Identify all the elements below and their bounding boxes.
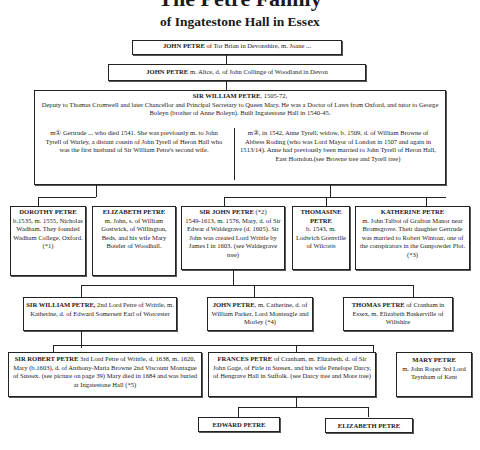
connector bbox=[224, 197, 446, 198]
connector bbox=[296, 397, 297, 407]
person-john-petre-tor-brian: JOHN PETRE of Tor Brian in Devonshire, m… bbox=[132, 40, 342, 55]
connector bbox=[38, 197, 96, 198]
connector bbox=[226, 55, 227, 64]
connector bbox=[254, 285, 255, 297]
connector bbox=[224, 197, 225, 206]
connector bbox=[373, 345, 374, 352]
connector bbox=[53, 345, 373, 346]
connector bbox=[81, 285, 82, 297]
page-title: The Petre Family bbox=[0, 0, 480, 10]
person-frances-petre: FRANCES PETRE of Cranham, m. Elizabeth, … bbox=[208, 352, 376, 397]
connector bbox=[330, 185, 331, 197]
connector bbox=[81, 285, 413, 286]
connector bbox=[413, 285, 414, 297]
person-edward-petre: EDWARD PETRE bbox=[198, 417, 280, 432]
person-john-petre-catherine: JOHN PETRE, m. Catherine, d. of William … bbox=[207, 297, 313, 331]
person-elizabeth-petre-2: ELIZABETH PETRE bbox=[325, 418, 413, 433]
person-john-petre-alice: JOHN PETRE m. Alice, d. of John Collinge… bbox=[108, 64, 366, 81]
page-subtitle: of Ingatestone Hall in Essex bbox=[0, 14, 480, 30]
person-thomasine-petre: THOMASINE PETREb. 1543, m. Lodwich Grenv… bbox=[292, 206, 350, 270]
marriage-1: m① Gertrude ... who died 1541. She was p… bbox=[44, 129, 224, 155]
person-sir-william-petre-2nd-lord: SIR WILLIAM PETRE, 2nd Lord Petre of Wri… bbox=[23, 297, 177, 331]
person-dorothy-petre: DOROTHY PETREb.1535, m. 1555, Nicholas W… bbox=[10, 206, 86, 276]
person-katherine-petre: KATHERINE PETREm. John Talbot of Grafton… bbox=[355, 206, 470, 270]
connector bbox=[296, 345, 297, 352]
connector bbox=[226, 81, 227, 90]
marriage-divider bbox=[234, 128, 235, 180]
person-thomas-petre: THOMAS PETRE of Cranham in Essex, m. Eli… bbox=[343, 297, 453, 331]
person-sir-robert-petre: SIR ROBERT PETRE 3rd Lord Petre of Writt… bbox=[8, 352, 202, 397]
person-mary-petre: MARY PETREm. John Roper 3rd Lord Teynham… bbox=[396, 352, 472, 397]
connector bbox=[38, 197, 39, 206]
connector bbox=[368, 407, 369, 417]
sir-william-bio: Deputy to Thomas Cromwell and later Chan… bbox=[37, 101, 443, 118]
marriage-2: m②, in 1542, Anne Tyrell, widow, b. 1509… bbox=[238, 129, 438, 163]
connector bbox=[96, 185, 97, 197]
person-elizabeth-petre-gostwick: ELIZABETH PETREm. John, s. of William Go… bbox=[92, 206, 176, 276]
connector bbox=[238, 407, 368, 408]
connector bbox=[326, 197, 327, 206]
connector bbox=[426, 197, 427, 206]
connector bbox=[233, 270, 234, 285]
connector bbox=[238, 407, 239, 417]
connector bbox=[53, 345, 54, 352]
person-sir-john-petre: SIR JOHN PETRE (*2)1549-1613, m. 1576, M… bbox=[181, 206, 285, 270]
